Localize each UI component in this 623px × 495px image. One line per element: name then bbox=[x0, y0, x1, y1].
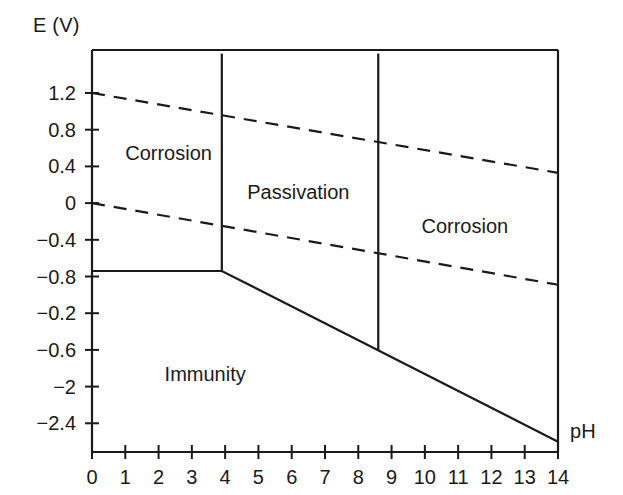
y-axis-tick-label: 0.8 bbox=[0, 118, 76, 141]
y-axis-tick-label: −0.6 bbox=[0, 338, 76, 361]
y-axis-tick-label: 0 bbox=[0, 192, 76, 215]
y-axis-tick-label: −2 bbox=[0, 375, 76, 398]
y-axis-tick-label: −0.8 bbox=[0, 265, 76, 288]
data-series bbox=[92, 54, 558, 442]
x-axis-tick-label: 3 bbox=[186, 466, 197, 489]
x-axis-tick-label: 11 bbox=[448, 466, 469, 489]
x-axis-tick-label: 9 bbox=[386, 466, 397, 489]
pourbaix-diagram-figure: E (V) pH 1.20.80.40−0.4−0.8−0.2−0.6−2−2.… bbox=[0, 0, 623, 495]
plot-area bbox=[0, 0, 623, 495]
region-label-immunity: Immunity bbox=[165, 362, 246, 385]
x-axis-tick-label: 7 bbox=[319, 466, 330, 489]
region-label-passivation: Passivation bbox=[247, 181, 349, 204]
x-axis-tick-label: 1 bbox=[120, 466, 131, 489]
x-axis-tick-label: 8 bbox=[353, 466, 364, 489]
x-axis-tick-label: 10 bbox=[414, 466, 436, 489]
y-axis-tick-label: −0.2 bbox=[0, 302, 76, 325]
y-axis-tick-label: −0.4 bbox=[0, 228, 76, 251]
region-label-corrosion: Corrosion bbox=[421, 215, 508, 238]
plot-frame bbox=[92, 50, 558, 452]
x-axis-tick-label: 0 bbox=[86, 466, 97, 489]
x-axis-tick-label: 13 bbox=[514, 466, 536, 489]
x-axis-tick-label: 4 bbox=[220, 466, 231, 489]
immunity-boundary bbox=[92, 271, 558, 442]
x-axis-tick-label: 6 bbox=[286, 466, 297, 489]
x-axis-tick-label: 14 bbox=[547, 466, 569, 489]
region-label-corrosion: Corrosion bbox=[125, 141, 212, 164]
x-axis-tick-label: 5 bbox=[253, 466, 264, 489]
x-axis-tick-label: 12 bbox=[480, 466, 502, 489]
y-axis-tick-label: −2.4 bbox=[0, 412, 76, 435]
x-axis-tick-label: 2 bbox=[153, 466, 164, 489]
y-axis-tick-label: 1.2 bbox=[0, 82, 76, 105]
y-axis-tick-label: 0.4 bbox=[0, 155, 76, 178]
